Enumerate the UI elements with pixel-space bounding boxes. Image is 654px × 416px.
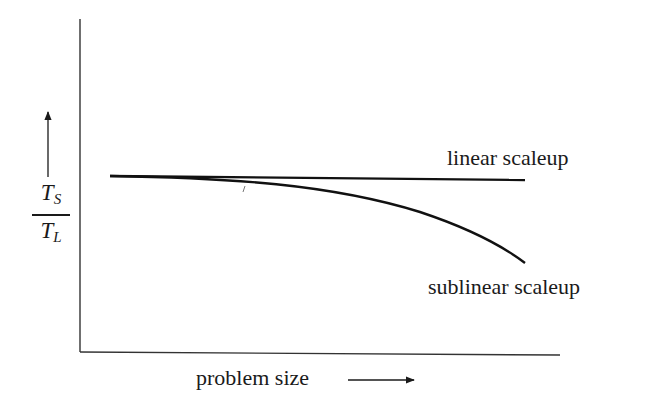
y-axis-label: TS TL: [32, 180, 70, 250]
y-label-numerator: T: [41, 180, 54, 205]
y-label-numerator-sub: S: [54, 191, 62, 207]
y-label-denominator: T: [40, 218, 53, 243]
linear-scaleup-label: linear scaleup: [447, 147, 569, 169]
scaleup-diagram: [0, 0, 654, 416]
x-axis: [80, 352, 560, 355]
fraction-bar: [32, 214, 70, 216]
stray-mark: [243, 186, 245, 192]
y-label-denominator-sub: L: [53, 229, 61, 245]
x-axis-label: problem size: [196, 367, 309, 389]
sublinear-scaleup-label: sublinear scaleup: [428, 276, 580, 298]
sublinear-scaleup-curve: [110, 176, 525, 263]
